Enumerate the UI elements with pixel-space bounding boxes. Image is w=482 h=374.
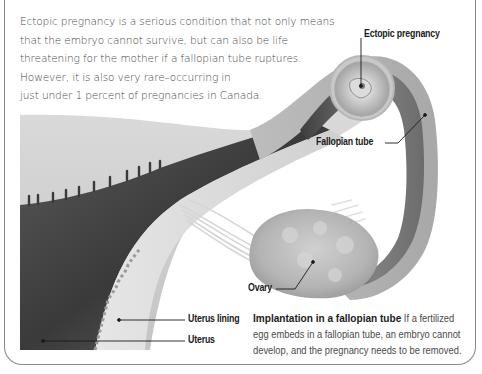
- intro-line: just under 1 percent of pregnancies in C…: [20, 86, 340, 105]
- intro-line: threatening for the mother if a fallopia…: [20, 49, 340, 68]
- label-uterus-lining: Uterus lining: [188, 313, 239, 324]
- caption-text: develop, and the pregnancy needs to be r…: [253, 343, 469, 359]
- label-uterus: Uterus: [188, 334, 215, 345]
- caption-text: If a fertilized: [401, 313, 454, 324]
- label-ovary: Ovary: [248, 282, 272, 293]
- caption-text: egg embeds in a fallopian tube, an embry…: [253, 327, 469, 343]
- caption: Implantation in a fallopian tube If a fe…: [253, 310, 469, 359]
- label-ectopic-pregnancy: Ectopic pregnancy: [364, 28, 440, 39]
- intro-line: that the embryo cannot survive, but can …: [20, 31, 340, 50]
- intro-paragraph: Ectopic pregnancy is a serious condition…: [20, 12, 340, 105]
- intro-line: Ectopic pregnancy is a serious condition…: [20, 12, 340, 31]
- caption-title: Implantation in a fallopian tube: [253, 312, 401, 324]
- intro-line: However, it is also very rare–occurring …: [20, 68, 340, 87]
- label-fallopian-tube: Fallopian tube: [316, 136, 373, 147]
